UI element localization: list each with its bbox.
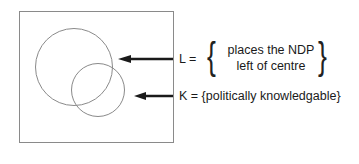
- set-k-label: K = {politically knowledgable}: [179, 90, 341, 103]
- universe-box: [20, 12, 174, 143]
- arrow-k-icon: [134, 92, 173, 100]
- arrow-l-icon: [118, 55, 173, 63]
- set-l-description: places the NDP left of centre: [222, 42, 320, 74]
- right-brace-icon: }: [318, 37, 327, 75]
- venn-diagram: [0, 0, 359, 164]
- set-l-line-2: left of centre: [222, 58, 320, 74]
- set-l-circle: [36, 29, 113, 106]
- set-k-circle: [72, 64, 125, 117]
- set-l-line-1: places the NDP: [222, 42, 320, 58]
- left-brace-icon: {: [207, 37, 216, 75]
- set-l-label: L =: [179, 53, 196, 66]
